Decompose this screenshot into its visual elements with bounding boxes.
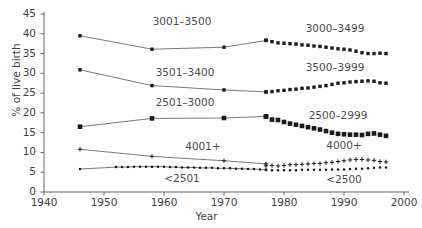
series-annotation-label: 3501–3400 xyxy=(156,66,215,78)
series-annotation-label: <2500 xyxy=(326,173,362,185)
data-point-marker xyxy=(78,68,81,71)
data-point-marker xyxy=(379,166,382,169)
data-point-marker xyxy=(223,167,226,170)
data-point-marker xyxy=(241,167,244,170)
data-point-marker xyxy=(282,120,287,125)
data-point-marker xyxy=(222,46,225,49)
x-tick-label: 1990 xyxy=(324,196,364,208)
x-tick-label: 1960 xyxy=(144,196,184,208)
x-tick-label: 1950 xyxy=(84,196,124,208)
data-point-marker xyxy=(294,163,298,167)
data-point-marker xyxy=(378,132,383,137)
data-point-marker xyxy=(282,89,285,92)
data-point-marker xyxy=(211,167,214,170)
data-point-marker xyxy=(289,169,292,172)
data-point-marker xyxy=(360,157,364,161)
data-point-marker xyxy=(312,44,315,47)
data-point-marker xyxy=(318,127,323,132)
data-point-marker xyxy=(294,87,297,90)
x-tick-label: 1980 xyxy=(264,196,304,208)
data-point-marker xyxy=(354,157,358,161)
data-point-marker xyxy=(205,167,208,170)
data-point-marker xyxy=(115,166,118,169)
data-point-marker xyxy=(355,167,358,170)
data-point-marker xyxy=(306,86,309,89)
data-point-marker xyxy=(360,133,365,138)
series-annotation-label: 4001+ xyxy=(185,140,221,152)
data-point-marker xyxy=(324,129,329,134)
data-point-marker xyxy=(121,166,124,169)
data-point-marker xyxy=(276,41,279,44)
data-point-marker xyxy=(330,160,334,164)
data-point-marker xyxy=(366,79,369,82)
data-point-marker xyxy=(271,169,274,172)
data-point-marker xyxy=(372,52,375,55)
data-point-marker xyxy=(325,169,328,172)
data-point-marker xyxy=(342,132,347,137)
data-point-marker xyxy=(222,88,225,91)
series-annotation-label: 2501–3000 xyxy=(156,96,215,108)
data-point-marker xyxy=(354,80,357,83)
data-point-marker xyxy=(193,166,196,169)
data-point-marker xyxy=(342,81,345,84)
y-tick-label: 10 xyxy=(14,145,36,157)
data-point-marker xyxy=(306,162,310,166)
data-point-marker xyxy=(331,168,334,171)
data-point-marker xyxy=(270,117,275,122)
data-point-marker xyxy=(378,159,382,163)
data-point-marker xyxy=(372,131,377,136)
data-point-marker xyxy=(264,38,267,41)
data-point-marker xyxy=(300,162,304,166)
data-point-marker xyxy=(336,132,341,137)
data-point-marker xyxy=(300,124,305,129)
data-point-marker xyxy=(235,167,238,170)
data-point-marker xyxy=(306,125,311,130)
data-point-marker xyxy=(348,80,351,83)
data-point-marker xyxy=(378,81,381,84)
data-point-marker xyxy=(330,46,333,49)
series-line xyxy=(80,36,266,49)
data-point-marker xyxy=(276,164,280,168)
data-point-marker xyxy=(360,51,363,54)
data-point-marker xyxy=(169,166,172,169)
data-point-marker xyxy=(199,167,202,170)
data-point-marker xyxy=(384,52,387,55)
data-point-marker xyxy=(253,168,256,171)
data-point-marker xyxy=(366,52,369,55)
data-point-marker xyxy=(330,83,333,86)
data-point-marker xyxy=(127,166,130,169)
y-tick-label: 25 xyxy=(14,86,36,98)
data-point-marker xyxy=(282,163,286,167)
data-point-marker xyxy=(150,154,154,158)
data-point-marker xyxy=(139,165,142,168)
series-annotation-label: 4000+ xyxy=(326,139,362,151)
data-point-marker xyxy=(150,84,153,87)
x-tick-label: 2000 xyxy=(384,196,422,208)
data-point-marker xyxy=(337,168,340,171)
data-point-marker xyxy=(283,169,286,172)
data-point-marker xyxy=(360,80,363,83)
y-tick-label: 30 xyxy=(14,66,36,78)
data-point-marker xyxy=(336,159,340,163)
data-point-marker xyxy=(307,169,310,172)
data-point-marker xyxy=(157,165,160,168)
data-point-marker xyxy=(385,166,388,169)
y-tick-label: 15 xyxy=(14,126,36,138)
data-point-marker xyxy=(181,166,184,169)
data-point-marker xyxy=(276,118,281,123)
data-point-marker xyxy=(312,161,316,165)
data-point-marker xyxy=(264,90,267,93)
data-point-marker xyxy=(78,124,83,129)
series-annotation-label: <2501 xyxy=(164,172,200,184)
data-point-marker xyxy=(367,167,370,170)
data-point-marker xyxy=(354,49,357,52)
data-point-marker xyxy=(175,166,178,169)
x-tick-label: 1970 xyxy=(204,196,244,208)
y-tick-label: 45 xyxy=(14,7,36,19)
y-tick-label: 35 xyxy=(14,47,36,59)
data-point-marker xyxy=(288,88,291,91)
chart-container: % of live birth Year 051015202530354045 … xyxy=(0,0,413,228)
series-line xyxy=(80,116,266,126)
data-point-marker xyxy=(324,161,328,165)
data-point-marker xyxy=(217,167,220,170)
